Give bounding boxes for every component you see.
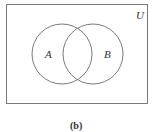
- set-a-circle: [32, 24, 92, 84]
- universe-rectangle: [7, 5, 148, 104]
- universe-label: U: [136, 9, 145, 21]
- venn-diagram: U A B (b): [0, 0, 152, 132]
- figure-caption: (b): [70, 120, 82, 132]
- set-a-label: A: [44, 48, 52, 60]
- set-b-circle: [63, 24, 123, 84]
- set-b-label: B: [104, 48, 111, 60]
